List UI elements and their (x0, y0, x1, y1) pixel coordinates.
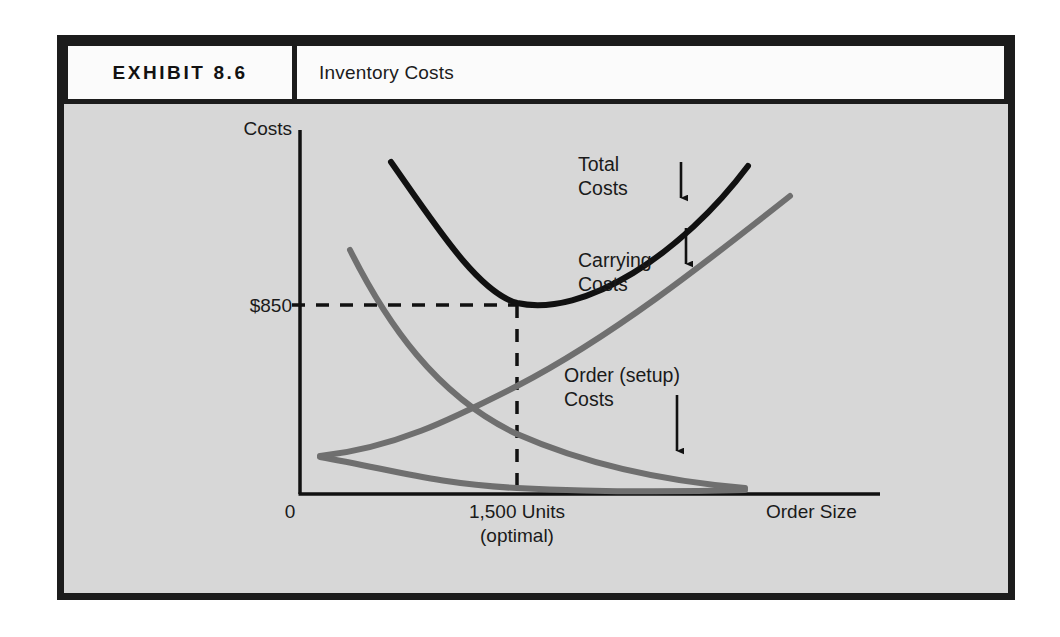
order-setup-costs-curve (320, 457, 745, 491)
exhibit-header: EXHIBIT 8.6 Inventory Costs (64, 42, 1008, 104)
y-axis-label: Costs (243, 118, 292, 139)
total-costs-label-line1: Total (578, 153, 619, 175)
exhibit-frame: EXHIBIT 8.6 Inventory Costs Costs Order … (57, 35, 1015, 600)
optimal-order-label-line2: (optimal) (480, 525, 554, 546)
carrying-costs-label-line2: Costs (578, 273, 628, 295)
exhibit-title-cell: Inventory Costs (297, 46, 1004, 99)
carrying-costs-label-line1: Carrying (578, 249, 652, 271)
chart-plot-area: Costs Order Size 0 $850 1,500 Units (opt… (64, 104, 1008, 593)
carrying-costs-curve-visible (320, 196, 790, 456)
origin-label: 0 (285, 501, 296, 522)
exhibit-number-label: EXHIBIT 8.6 (112, 62, 247, 84)
total-costs-curve (391, 162, 748, 305)
exhibit-number-cell: EXHIBIT 8.6 (68, 46, 292, 99)
exhibit-title-label: Inventory Costs (319, 62, 454, 84)
x-axis-label: Order Size (766, 501, 857, 522)
order-setup-costs-label-line1: Order (setup) (564, 364, 680, 386)
inventory-costs-chart: Costs Order Size 0 $850 1,500 Units (opt… (64, 104, 1008, 593)
order-setup-costs-label-line2: Costs (564, 388, 614, 410)
total-costs-label-line2: Costs (578, 177, 628, 199)
cost-value-label: $850 (250, 295, 292, 316)
optimal-order-label-line1: 1,500 Units (469, 501, 565, 522)
